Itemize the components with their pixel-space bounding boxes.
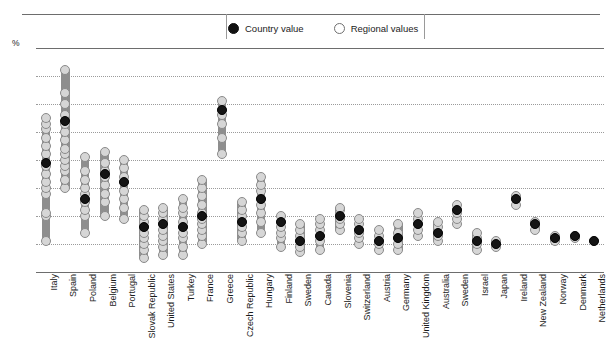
data-column xyxy=(490,48,503,272)
x-axis-label: Turkey xyxy=(187,274,196,301)
x-axis-label: Italy xyxy=(50,274,59,291)
chart-page: Country value Regional values % 80706050… xyxy=(0,0,613,356)
x-axis-label: Ireland xyxy=(520,274,529,302)
data-column xyxy=(549,48,562,272)
x-axis-label: Austria xyxy=(383,274,392,302)
x-axis-label: Switzerland xyxy=(363,274,372,321)
country-value-point xyxy=(511,194,521,204)
data-column xyxy=(255,48,268,272)
data-column xyxy=(176,48,189,272)
regional-value-point xyxy=(433,217,443,227)
data-column xyxy=(59,48,72,272)
x-axis-label: Sweden xyxy=(304,274,313,307)
x-axis-label: Netherlands xyxy=(598,274,607,323)
regional-value-point xyxy=(178,203,188,213)
x-axis-label: Poland xyxy=(89,274,98,302)
regional-value-point xyxy=(217,133,227,143)
data-column xyxy=(568,48,581,272)
country-value-point xyxy=(315,231,325,241)
regional-value-point xyxy=(315,214,325,224)
x-axis-label: Spain xyxy=(69,274,78,297)
x-axis-label: Belgium xyxy=(109,274,118,307)
regional-value-point xyxy=(41,113,51,123)
legend-separator-right xyxy=(424,14,425,39)
country-value-point xyxy=(139,222,149,232)
data-column xyxy=(118,48,131,272)
x-axis-label: Slovenia xyxy=(344,274,353,309)
regional-value-point xyxy=(41,236,51,246)
data-column xyxy=(588,48,601,272)
regional-value-point xyxy=(41,208,51,218)
x-axis-label: Slovak Republic xyxy=(148,274,157,339)
data-column xyxy=(98,48,111,272)
regional-value-point xyxy=(119,214,129,224)
chart-legend: Country value Regional values xyxy=(228,17,418,39)
data-column xyxy=(431,48,444,272)
data-column xyxy=(529,48,542,272)
x-axis-label: France xyxy=(206,274,215,302)
open-circle-icon xyxy=(334,23,345,34)
country-value-point xyxy=(472,236,482,246)
country-value-point xyxy=(570,231,580,241)
regional-value-point xyxy=(276,242,286,252)
legend-separator-left xyxy=(226,14,227,39)
regional-value-point xyxy=(237,197,247,207)
data-column xyxy=(157,48,170,272)
x-axis-label: New Zealand xyxy=(539,274,548,327)
x-axis-label: Greece xyxy=(226,274,235,304)
regional-value-point xyxy=(119,186,129,196)
data-column xyxy=(411,48,424,272)
x-axis-label: Australia xyxy=(442,274,451,309)
x-axis-label: Norway xyxy=(559,274,568,305)
header-rule xyxy=(22,14,600,15)
country-value-point xyxy=(237,217,247,227)
regional-value-point xyxy=(315,245,325,255)
country-value-point xyxy=(217,105,227,115)
x-axis-label: Sweden xyxy=(461,274,470,307)
regional-value-point xyxy=(256,228,266,238)
x-axis-labels: ItalySpainPolandBelgiumPortugalSlovak Re… xyxy=(36,274,604,356)
regional-value-point xyxy=(100,211,110,221)
country-value-point xyxy=(589,236,599,246)
regional-value-point xyxy=(158,203,168,213)
data-column xyxy=(333,48,346,272)
regional-value-point xyxy=(217,149,227,159)
x-axis-label: Japan xyxy=(500,274,509,299)
data-column xyxy=(314,48,327,272)
regional-value-point xyxy=(80,228,90,238)
legend-label-country-value: Country value xyxy=(245,23,304,34)
data-column xyxy=(294,48,307,272)
regional-value-point xyxy=(60,175,70,185)
data-column xyxy=(372,48,385,272)
legend-item-country-value: Country value xyxy=(228,23,304,34)
x-axis-label: Canada xyxy=(324,274,333,306)
regional-value-point xyxy=(80,175,90,185)
filled-circle-icon xyxy=(228,23,239,34)
x-axis-label: Israel xyxy=(481,274,490,296)
data-column xyxy=(392,48,405,272)
x-axis-label: Denmark xyxy=(579,274,588,311)
legend-label-regional-values: Regional values xyxy=(351,23,419,34)
country-value-point xyxy=(335,211,345,221)
x-axis-label: Finland xyxy=(285,274,294,304)
data-column xyxy=(353,48,366,272)
data-column xyxy=(274,48,287,272)
y-axis-unit-label: % xyxy=(12,38,20,48)
country-value-point xyxy=(276,217,286,227)
x-axis-label: United Kingdom xyxy=(422,274,431,338)
data-column xyxy=(451,48,464,272)
data-column xyxy=(137,48,150,272)
country-value-point xyxy=(100,169,110,179)
regional-value-point xyxy=(178,242,188,252)
x-axis-label: Portugal xyxy=(128,274,137,308)
regional-value-point xyxy=(100,158,110,168)
regional-value-point xyxy=(374,225,384,235)
data-column xyxy=(196,48,209,272)
gridline-0 xyxy=(36,272,604,273)
regional-value-point xyxy=(354,214,364,224)
data-column xyxy=(470,48,483,272)
country-value-point xyxy=(374,236,384,246)
country-value-point xyxy=(41,158,51,168)
regional-value-point xyxy=(100,189,110,199)
x-axis-label: Hungary xyxy=(265,274,274,308)
